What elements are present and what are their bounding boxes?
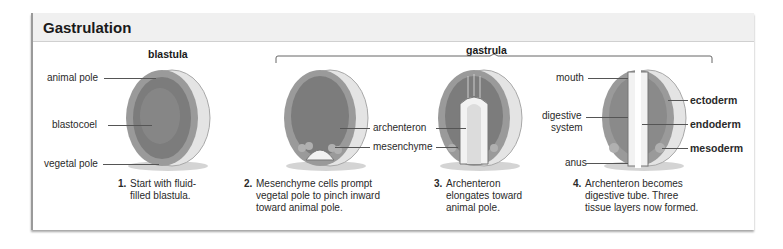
early-gastrula-illustration (276, 68, 372, 172)
label-mouth: mouth (556, 72, 584, 84)
label-anus: anus (565, 157, 587, 169)
leader-line (586, 163, 628, 164)
label-endoderm: endoderm (690, 118, 741, 130)
leader-line (436, 147, 458, 148)
leader-line (103, 164, 159, 165)
stage-blastula-label: blastula (148, 48, 188, 60)
leader-line (642, 124, 688, 125)
gastrula-bracket (275, 54, 713, 64)
label-animal-pole: animal pole (47, 72, 98, 84)
leader-line (586, 117, 628, 118)
label-mesoderm: mesoderm (690, 142, 743, 154)
panel-header: Gastrulation (33, 13, 754, 42)
leader-line (340, 128, 370, 129)
leader-line (335, 147, 370, 148)
leader-line (436, 128, 466, 129)
label-vegetal-pole: vegetal pole (44, 158, 98, 170)
leader-line (668, 100, 688, 101)
leader-line (104, 78, 156, 79)
panel-title: Gastrulation (43, 19, 131, 36)
leader-line (588, 78, 628, 79)
leader-line (108, 125, 152, 126)
leader-line (662, 148, 688, 149)
label-ectoderm: ectoderm (690, 94, 737, 106)
label-archenteron: archenteron (373, 122, 426, 134)
label-digestive-system-line1: digestive (542, 110, 581, 122)
label-blastocoel: blastocoel (52, 119, 97, 131)
blastula-illustration (118, 68, 214, 172)
mid-gastrula-illustration (430, 68, 526, 172)
label-mesenchyme: mesenchyme (373, 141, 432, 153)
late-gastrula-illustration (594, 68, 690, 172)
label-digestive-system-line2: system (551, 122, 583, 134)
